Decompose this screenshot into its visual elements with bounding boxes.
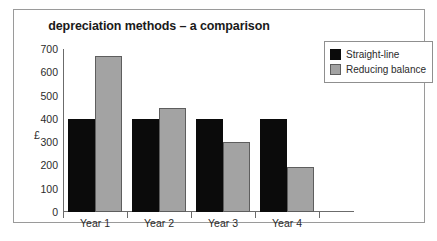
chart-legend: Straight-lineReducing balance — [324, 41, 433, 83]
x-axis-category-label: Year 1 — [80, 217, 110, 229]
bar-group — [127, 49, 191, 212]
y-axis-tick-label: 300 — [26, 136, 58, 148]
x-axis-tick — [255, 212, 256, 218]
x-axis-category-label: Year 3 — [208, 217, 238, 229]
bar[interactable] — [68, 119, 95, 212]
x-axis-tick — [127, 212, 128, 218]
bar[interactable] — [159, 108, 186, 212]
x-axis-tick — [191, 212, 192, 218]
bar[interactable] — [95, 56, 122, 212]
legend-label: Straight-line — [346, 49, 399, 60]
y-axis-tick-label: 100 — [26, 183, 58, 195]
bar[interactable] — [223, 142, 250, 212]
bar-group — [255, 49, 319, 212]
x-axis-tick — [319, 212, 320, 218]
x-axis-tick — [63, 212, 64, 218]
chart-title: depreciation methods – a comparison — [14, 19, 304, 33]
bar[interactable] — [132, 119, 159, 212]
x-axis-category-label: Year 4 — [272, 217, 302, 229]
bar[interactable] — [196, 119, 223, 212]
bar[interactable] — [287, 167, 314, 212]
y-axis-tick-label: 400 — [26, 113, 58, 125]
y-axis-tick-label: 500 — [26, 90, 58, 102]
legend-item[interactable]: Reducing balance — [330, 62, 426, 77]
y-axis-tick-label: 0 — [26, 206, 58, 218]
bar-group — [191, 49, 255, 212]
bar[interactable] — [260, 119, 287, 212]
y-axis-tick-labels: 0100200300400500600700 — [24, 49, 58, 212]
y-axis-tick-label: 200 — [26, 159, 58, 171]
y-axis-tick-label: 600 — [26, 66, 58, 78]
legend-swatch — [330, 49, 341, 60]
y-axis-tick-label: 700 — [26, 43, 58, 55]
x-axis-category-label: Year 2 — [144, 217, 174, 229]
plot-area — [63, 49, 319, 212]
chart-frame: depreciation methods – a comparison £ 01… — [13, 9, 425, 223]
legend-label: Reducing balance — [346, 64, 426, 75]
legend-item[interactable]: Straight-line — [330, 47, 426, 62]
bar-group — [63, 49, 127, 212]
legend-swatch — [330, 64, 341, 75]
